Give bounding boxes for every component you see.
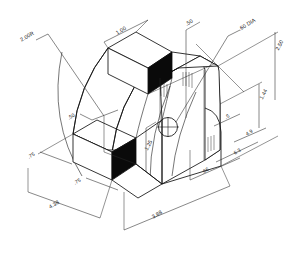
ext-height-overall-top: [218, 32, 278, 66]
ext-height-plate: [220, 82, 262, 104]
dim-text-offset-mid: 6.3: [232, 147, 241, 156]
dim-line-width-base: [28, 192, 100, 218]
dim-text-offset-bottom: .66: [200, 166, 209, 175]
dim-text-depth-left: .75: [26, 151, 35, 160]
isometric-drawing-svg: 2.00R 1.00 .50 .60 DIA 2.50 1.44 .50 1.2…: [0, 0, 306, 260]
ext-width-top-a: [104, 42, 108, 48]
dim-text-hole-dia: .60 DIA: [237, 17, 256, 32]
dim-text-thickness-top: .50: [184, 18, 194, 27]
dim-text-radius-outer: 2.00R: [19, 30, 35, 43]
ext-depth-left: [38, 134, 73, 154]
dim-text-height-overall: 2.50: [274, 39, 284, 51]
engineering-drawing-canvas: 2.00R 1.00 .50 .60 DIA 2.50 1.44 .50 1.2…: [0, 0, 306, 260]
dim-text-height-plate: 1.44: [258, 88, 268, 100]
ext-width-top-b: [136, 20, 148, 32]
ext-length-overall-b: [221, 166, 230, 186]
dim-text-width-base: 4.38: [48, 199, 60, 210]
dim-text-offset-upper: 4.9: [244, 128, 253, 137]
dim-text-width-top: 1.00: [115, 25, 127, 36]
dim-line-depth-left: [40, 152, 72, 164]
dim-text-radius-inner: .50: [66, 112, 75, 121]
ext-height-overall-bot: [221, 136, 278, 166]
dim-text-length-overall: 3.88: [151, 209, 163, 220]
dim-text-depth-mid: .75: [72, 177, 81, 186]
